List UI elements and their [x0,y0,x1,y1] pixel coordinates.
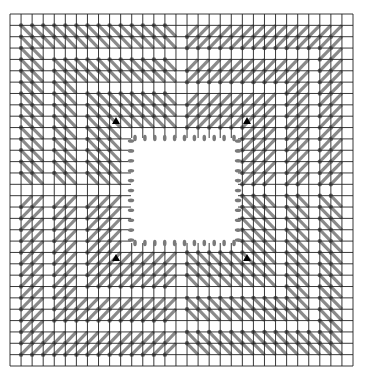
trace [121,332,132,343]
trace [87,71,98,82]
trace [320,332,331,343]
trace [110,59,121,70]
trace [154,37,165,48]
trace [220,343,231,354]
trace [99,59,110,70]
trace [99,264,110,275]
trace [298,252,309,263]
trace [298,116,309,127]
trace [331,59,342,70]
trace [331,321,342,332]
trace [21,37,32,48]
trace [32,287,43,298]
trace [220,25,231,36]
trace [65,264,76,275]
trace [331,207,342,218]
trace [99,218,110,229]
trace [65,230,76,241]
trace [287,218,298,229]
trace [87,207,98,218]
trace [143,116,154,127]
trace [242,275,253,286]
trace [165,59,176,70]
trace [187,71,198,82]
trace [65,218,76,229]
pad-right [235,199,241,203]
trace [65,252,76,263]
pad-top [143,135,147,141]
trace [87,252,98,263]
trace [253,275,264,286]
trace [143,298,154,309]
trace [43,343,54,354]
trace [121,37,132,48]
trace [110,105,121,116]
pad-top [222,135,226,141]
trace [220,105,231,116]
trace [231,71,242,82]
trace [331,116,342,127]
trace [32,59,43,70]
trace [154,93,165,104]
trace [132,275,143,286]
trace [76,37,87,48]
trace [287,173,298,184]
trace [187,275,198,286]
trace [143,93,154,104]
trace [32,128,43,139]
pad-right [235,149,241,153]
trace [76,343,87,354]
trace [143,309,154,320]
trace [287,162,298,173]
trace [331,298,342,309]
trace [65,25,76,36]
trace [264,25,275,36]
pad-right [235,169,241,173]
trace [54,150,65,161]
trace [165,116,176,127]
trace [320,287,331,298]
trace [99,252,110,263]
trace [32,173,43,184]
trace [276,37,287,48]
trace [264,343,275,354]
trace [320,162,331,173]
trace [165,332,176,343]
trace [21,173,32,184]
trace [264,59,275,70]
trace [65,59,76,70]
trace [65,207,76,218]
trace [320,48,331,59]
trace [264,252,275,263]
trace [253,71,264,82]
trace [253,173,264,184]
trace [143,252,154,263]
trace [110,275,121,286]
trace [143,264,154,275]
pad-bottom [212,240,216,246]
trace [198,25,209,36]
pad-left [128,238,134,242]
trace [209,332,220,343]
trace [264,173,275,184]
trace [132,309,143,320]
trace [231,25,242,36]
trace [132,25,143,36]
trace [331,309,342,320]
trace [187,309,198,320]
trace [110,128,121,139]
pad-right [235,159,241,163]
trace [154,275,165,286]
trace [320,150,331,161]
trace [54,218,65,229]
trace [298,150,309,161]
trace [287,93,298,104]
trace [54,128,65,139]
trace [220,332,231,343]
trace [99,241,110,252]
trace [143,71,154,82]
trace [32,150,43,161]
trace [231,105,242,116]
trace [65,150,76,161]
pad-bottom [193,240,197,246]
